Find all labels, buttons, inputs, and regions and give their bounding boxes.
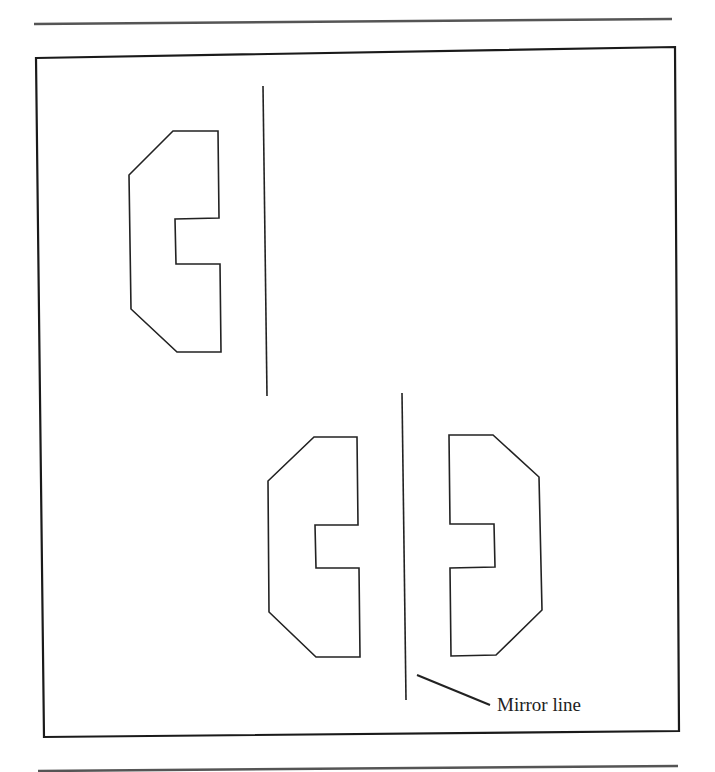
reflected-shape-right: [449, 435, 542, 656]
original-mirror-line: [263, 86, 267, 396]
bottom-rule: [38, 766, 678, 771]
mirror-line-label: Mirror line: [497, 694, 581, 715]
mirror-diagram: Mirror line: [0, 0, 715, 772]
diagram-frame: [36, 47, 679, 737]
reflected-shape-left: [268, 437, 360, 657]
label-leader-line: [417, 675, 490, 705]
top-rule: [34, 19, 672, 24]
mirror-line: [402, 393, 406, 700]
original-shape: [129, 131, 221, 352]
